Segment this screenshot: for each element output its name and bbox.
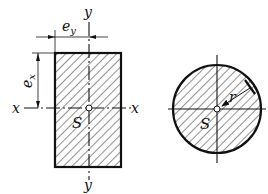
ey-arrow-right bbox=[89, 35, 96, 39]
ey-label: ey bbox=[62, 18, 76, 36]
rect-centroid-label: S bbox=[72, 114, 82, 132]
rect-y-label-bottom: y bbox=[83, 177, 93, 193]
circle-centroid-label: S bbox=[200, 115, 210, 133]
rect-centroid-marker bbox=[86, 105, 92, 111]
ey-arrow-left bbox=[48, 35, 55, 39]
circle-centroid-marker bbox=[214, 106, 220, 112]
rect-x-label-left: x bbox=[12, 100, 20, 116]
circle-section: r S bbox=[168, 55, 266, 163]
rectangle-section: y y x x S ey ex bbox=[12, 4, 139, 193]
rect-x-label-right: x bbox=[131, 100, 139, 116]
ex-arrow-top bbox=[36, 53, 40, 61]
ex-label: ex bbox=[19, 74, 37, 88]
rect-y-label-top: y bbox=[83, 4, 93, 20]
cross-section-diagram: y y x x S ey ex r S bbox=[0, 0, 268, 194]
ex-arrow-bottom bbox=[36, 101, 40, 108]
